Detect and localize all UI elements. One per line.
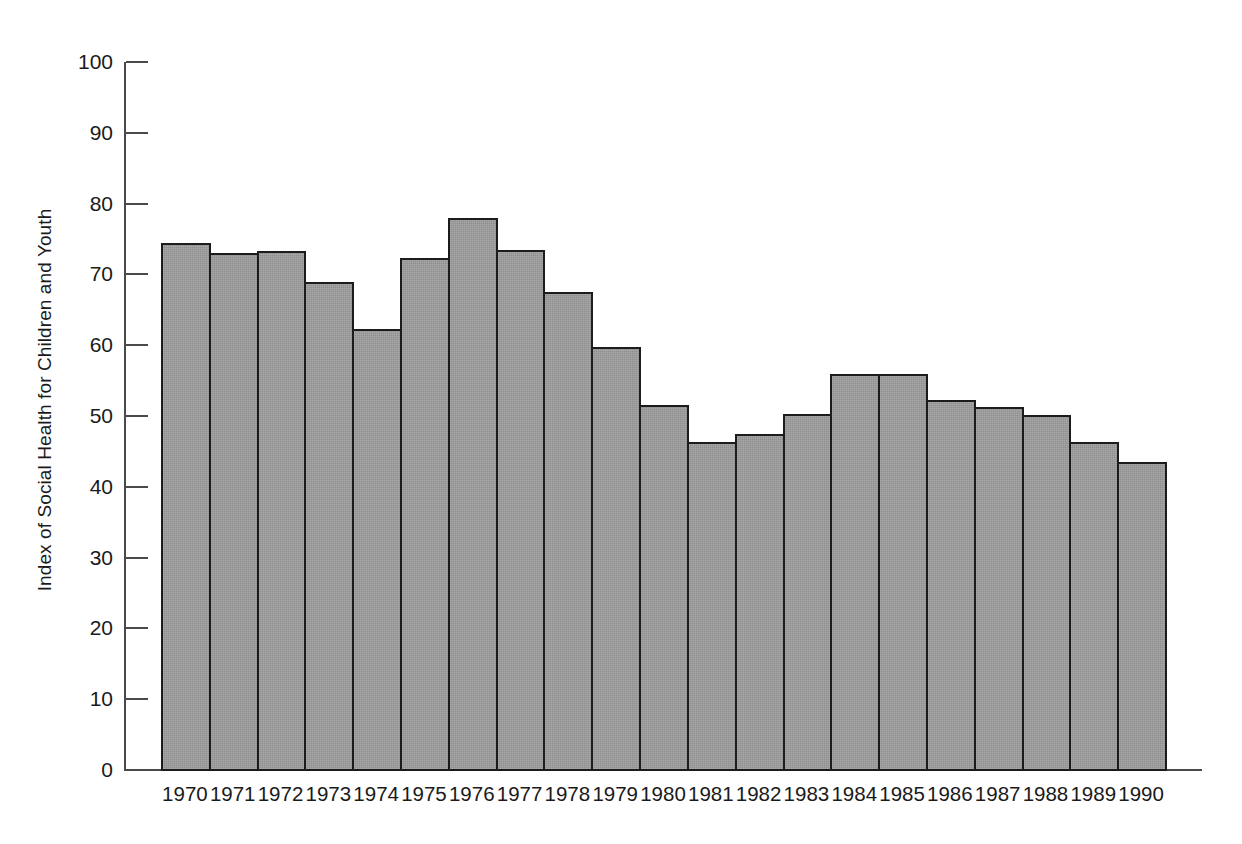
x-tick-label-1977: 1977 — [494, 782, 546, 806]
y-tick-0 — [126, 769, 148, 771]
x-tick-label-1974: 1974 — [350, 782, 402, 806]
y-tick-label-0: 0 — [55, 759, 113, 780]
bar-1975 — [400, 258, 450, 771]
y-tick-label-70: 70 — [55, 263, 113, 284]
bar-1982 — [735, 434, 785, 771]
y-tick-10 — [126, 698, 148, 700]
x-tick-label-1990: 1990 — [1115, 782, 1167, 806]
y-tick-label-40: 40 — [55, 476, 113, 497]
x-tick-label-1982: 1982 — [733, 782, 785, 806]
bar-1986 — [926, 400, 976, 771]
bar-1979 — [591, 347, 641, 771]
bar-1970 — [161, 243, 211, 771]
bar-1988 — [1022, 415, 1072, 771]
x-tick-label-1987: 1987 — [972, 782, 1024, 806]
bar-1971 — [209, 253, 259, 771]
y-tick-70 — [126, 273, 148, 275]
y-tick-30 — [126, 557, 148, 559]
x-tick-label-1978: 1978 — [541, 782, 593, 806]
y-tick-100 — [126, 61, 148, 63]
y-tick-label-100: 100 — [55, 51, 113, 72]
y-tick-label-90: 90 — [55, 122, 113, 143]
plot-area — [161, 62, 1165, 771]
y-tick-90 — [126, 132, 148, 134]
bar-1987 — [974, 407, 1024, 771]
bar-1981 — [687, 442, 737, 771]
x-tick-label-1972: 1972 — [255, 782, 307, 806]
x-tick-label-1973: 1973 — [302, 782, 354, 806]
x-tick-label-1970: 1970 — [159, 782, 211, 806]
bar-1980 — [639, 405, 689, 771]
y-tick-label-50: 50 — [55, 405, 113, 426]
bar-1977 — [496, 250, 546, 771]
x-tick-label-1975: 1975 — [398, 782, 450, 806]
y-tick-label-60: 60 — [55, 334, 113, 355]
bar-1974 — [352, 329, 402, 771]
bar-1972 — [257, 251, 307, 771]
x-tick-label-1979: 1979 — [589, 782, 641, 806]
y-tick-40 — [126, 486, 148, 488]
x-tick-label-1986: 1986 — [924, 782, 976, 806]
x-tick-label-1985: 1985 — [876, 782, 928, 806]
x-tick-label-1988: 1988 — [1020, 782, 1072, 806]
bar-1984 — [830, 374, 880, 771]
bar-1990 — [1117, 462, 1167, 771]
x-tick-label-1976: 1976 — [446, 782, 498, 806]
bar-1985 — [878, 374, 928, 771]
bar-1978 — [543, 292, 593, 771]
bar-1983 — [783, 414, 833, 771]
y-tick-50 — [126, 415, 148, 417]
bar-1973 — [304, 282, 354, 771]
x-tick-label-1971: 1971 — [207, 782, 259, 806]
y-tick-80 — [126, 203, 148, 205]
y-tick-label-10: 10 — [55, 688, 113, 709]
y-tick-label-30: 30 — [55, 547, 113, 568]
bar-chart-figure: Index of Social Health for Children and … — [0, 0, 1242, 844]
bar-1989 — [1069, 442, 1119, 772]
y-tick-label-80: 80 — [55, 193, 113, 214]
x-tick-label-1981: 1981 — [685, 782, 737, 806]
bar-1976 — [448, 218, 498, 771]
x-tick-label-1989: 1989 — [1067, 782, 1119, 806]
x-tick-label-1984: 1984 — [828, 782, 880, 806]
x-tick-label-1983: 1983 — [781, 782, 833, 806]
x-tick-label-1980: 1980 — [637, 782, 689, 806]
y-tick-60 — [126, 344, 148, 346]
y-tick-label-20: 20 — [55, 617, 113, 638]
y-tick-20 — [126, 627, 148, 629]
